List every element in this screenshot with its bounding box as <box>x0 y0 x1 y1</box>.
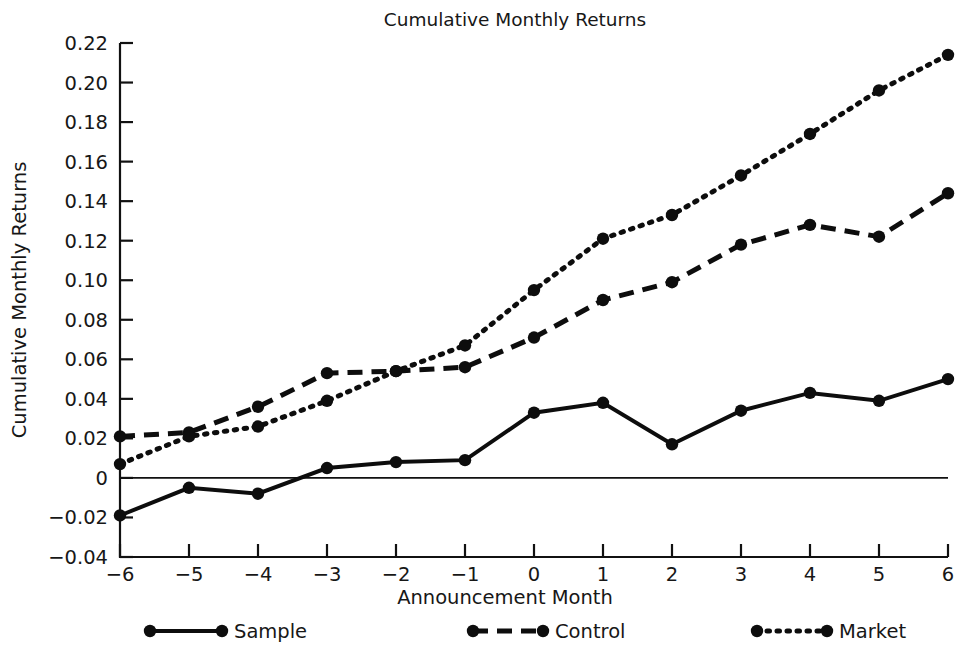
x-tick-label: −3 <box>313 563 342 586</box>
axis-lines <box>120 43 948 557</box>
y-axis-title: Cumulative Monthly Returns <box>8 162 31 439</box>
data-point-marker <box>804 387 816 399</box>
data-point-marker <box>942 187 954 199</box>
x-tick-label: 6 <box>942 563 954 586</box>
data-point-marker <box>459 361 471 373</box>
data-point-marker <box>804 219 816 231</box>
y-tick-label: 0.04 <box>65 388 108 411</box>
x-tick-label: −5 <box>175 563 204 586</box>
x-axis-ticks: −6−5−4−3−2−10123456 <box>106 544 955 586</box>
legend-marker-start <box>467 625 479 637</box>
legend-marker-end <box>216 625 228 637</box>
data-point-marker <box>183 482 195 494</box>
data-point-marker <box>321 462 333 474</box>
data-point-marker <box>804 128 816 140</box>
legend-item-market: Market <box>751 620 907 643</box>
data-point-marker <box>528 284 540 296</box>
data-point-marker <box>873 395 885 407</box>
x-tick-label: 4 <box>804 563 816 586</box>
data-series-group <box>114 49 954 522</box>
x-tick-label: −6 <box>106 563 135 586</box>
data-point-marker <box>873 231 885 243</box>
y-tick-label: 0.16 <box>65 151 108 174</box>
x-axis-title: Announcement Month <box>397 586 613 609</box>
data-point-marker <box>459 454 471 466</box>
legend-marker-end <box>821 625 833 637</box>
data-point-marker <box>873 84 885 96</box>
data-point-marker <box>666 209 678 221</box>
series-line-sample <box>120 379 948 515</box>
data-point-marker <box>252 401 264 413</box>
y-tick-label: 0.20 <box>65 72 108 95</box>
legend-item-sample: Sample <box>144 620 307 643</box>
data-point-marker <box>597 233 609 245</box>
legend-marker-end <box>537 625 549 637</box>
y-tick-label: 0.22 <box>65 32 108 55</box>
data-point-marker <box>735 238 747 250</box>
data-point-marker <box>528 406 540 418</box>
legend-label: Control <box>555 620 626 643</box>
legend-marker-start <box>144 625 156 637</box>
data-point-marker <box>252 420 264 432</box>
chart-figure: Cumulative Monthly Returns Cumulative Mo… <box>0 0 974 667</box>
x-tick-label: 5 <box>873 563 885 586</box>
cumulative-monthly-returns-chart: Cumulative Monthly Returns Cumulative Mo… <box>0 0 974 667</box>
x-tick-label: −1 <box>451 563 480 586</box>
y-tick-label: −0.02 <box>48 506 108 529</box>
y-tick-label: 0 <box>96 467 108 490</box>
series-line-control <box>120 193 948 436</box>
chart-title: Cumulative Monthly Returns <box>384 9 646 30</box>
y-tick-label: −0.04 <box>48 546 108 569</box>
data-point-marker <box>114 509 126 521</box>
data-point-marker <box>597 397 609 409</box>
y-tick-label: 0.14 <box>65 190 108 213</box>
data-point-marker <box>390 456 402 468</box>
data-point-marker <box>942 373 954 385</box>
legend-label: Market <box>839 620 906 643</box>
data-point-marker <box>252 488 264 500</box>
series-control <box>114 187 954 443</box>
series-sample <box>114 373 954 522</box>
data-point-marker <box>321 395 333 407</box>
data-point-marker <box>528 331 540 343</box>
y-tick-label: 0.18 <box>65 111 108 134</box>
data-point-marker <box>666 276 678 288</box>
data-point-marker <box>459 339 471 351</box>
legend-marker-start <box>751 625 763 637</box>
data-point-marker <box>114 430 126 442</box>
x-tick-label: 0 <box>528 563 540 586</box>
legend-label: Sample <box>234 620 307 643</box>
x-tick-label: 2 <box>666 563 678 586</box>
data-point-marker <box>942 49 954 61</box>
chart-legend: SampleControlMarket <box>144 620 907 643</box>
legend-item-control: Control <box>467 620 626 643</box>
data-point-marker <box>666 438 678 450</box>
y-tick-label: 0.12 <box>65 230 108 253</box>
y-tick-label: 0.08 <box>65 309 108 332</box>
data-point-marker <box>390 365 402 377</box>
x-tick-label: −4 <box>244 563 273 586</box>
y-tick-label: 0.06 <box>65 348 108 371</box>
data-point-marker <box>183 430 195 442</box>
x-tick-label: −2 <box>382 563 411 586</box>
series-line-market <box>120 55 948 464</box>
data-point-marker <box>321 367 333 379</box>
data-point-marker <box>597 294 609 306</box>
data-point-marker <box>735 169 747 181</box>
y-tick-label: 0.10 <box>65 269 108 292</box>
x-tick-label: 1 <box>597 563 609 586</box>
y-tick-label: 0.02 <box>65 427 108 450</box>
x-tick-label: 3 <box>735 563 747 586</box>
data-point-marker <box>735 405 747 417</box>
data-point-marker <box>114 458 126 470</box>
